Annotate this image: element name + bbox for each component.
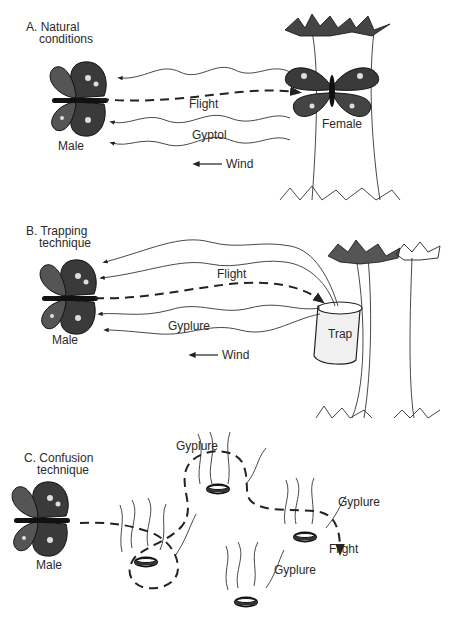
- panel-b-heading-2: technique: [39, 236, 91, 250]
- dispenser-icon: [207, 485, 229, 494]
- pheromone-label-3: Gyplure: [274, 563, 316, 577]
- pheromone-diagram: A. Natural conditions Male Female Flight…: [0, 0, 464, 619]
- pheromone-label: Gyptol: [192, 128, 227, 142]
- pheromone-label-1: Gyplure: [176, 439, 218, 453]
- panel-c: C. Confusion technique Male: [12, 432, 380, 607]
- flight-label: Flight: [217, 267, 247, 281]
- male-butterfly-icon: [40, 260, 98, 334]
- female-butterfly-icon: [285, 68, 378, 117]
- male-butterfly-icon: [12, 482, 70, 556]
- wind-label: Wind: [222, 348, 249, 362]
- male-label: Male: [52, 333, 78, 347]
- male-butterfly-icon: [50, 62, 108, 136]
- panel-b: B. Trapping technique Male Trap Flight G…: [26, 224, 440, 418]
- pheromone-label: Gyplure: [168, 319, 210, 333]
- male-label: Male: [36, 558, 62, 572]
- panel-a-heading-2: conditions: [39, 32, 93, 46]
- pheromone-label-2: Gyplure: [338, 495, 380, 509]
- female-label: Female: [322, 117, 362, 131]
- panel-a: A. Natural conditions Male Female Flight…: [26, 14, 400, 200]
- panel-c-heading-2: technique: [37, 463, 89, 477]
- dispenser-icon: [235, 598, 257, 607]
- dispenser-icon: [294, 533, 316, 542]
- trap-label: Trap: [328, 327, 353, 341]
- male-label: Male: [58, 139, 84, 153]
- wind-label: Wind: [226, 157, 253, 171]
- flight-label: Flight: [189, 97, 219, 111]
- dispenser-icon: [135, 558, 157, 567]
- flight-label: Flight: [329, 542, 359, 556]
